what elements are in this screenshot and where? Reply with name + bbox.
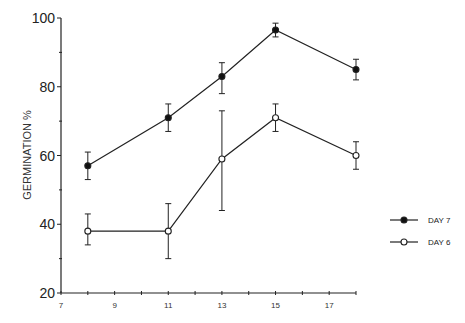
open-circle-icon — [401, 239, 407, 245]
y-tick-label: 60 — [39, 148, 55, 164]
series-day-6 — [85, 104, 359, 259]
filled-circle-marker — [85, 163, 91, 169]
x-tick-label: 17 — [325, 301, 334, 310]
y-tick-label: 40 — [39, 216, 55, 232]
open-circle-marker — [165, 228, 171, 234]
legend: DAY 7DAY 6 — [390, 216, 451, 247]
legend-item-day-7: DAY 7 — [390, 216, 451, 225]
germination-chart: 204060801007911131517 GERMINATION % DAY … — [0, 0, 465, 323]
y-tick-label: 80 — [39, 79, 55, 95]
x-tick-label: 15 — [271, 301, 280, 310]
axes: 204060801007911131517 — [32, 10, 356, 310]
y-tick-label: 20 — [39, 285, 55, 301]
open-circle-marker — [219, 156, 225, 162]
open-circle-marker — [273, 115, 279, 121]
filled-circle-marker — [165, 115, 171, 121]
x-tick-label: 7 — [59, 301, 64, 310]
legend-label: DAY 6 — [428, 238, 451, 247]
filled-circle-marker — [219, 73, 225, 79]
filled-circle-marker — [353, 67, 359, 73]
y-axis-title: GERMINATION % — [21, 110, 33, 200]
x-tick-label: 11 — [164, 301, 173, 310]
y-tick-label: 100 — [32, 10, 56, 26]
x-tick-label: 9 — [112, 301, 117, 310]
filled-circle-icon — [401, 217, 407, 223]
x-tick-label: 13 — [217, 301, 226, 310]
filled-circle-marker — [273, 27, 279, 33]
plot-area — [85, 23, 359, 258]
open-circle-marker — [85, 228, 91, 234]
legend-label: DAY 7 — [428, 216, 451, 225]
open-circle-marker — [353, 153, 359, 159]
legend-item-day-6: DAY 6 — [390, 238, 451, 247]
